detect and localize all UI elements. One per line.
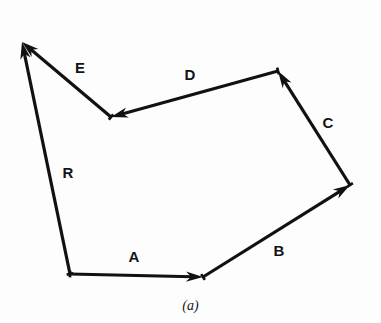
vector-label-A: A	[128, 249, 139, 264]
vector-label-D: D	[184, 67, 195, 82]
vector-shaft-D	[121, 71, 278, 114]
vector-polygon-canvas	[0, 0, 381, 323]
figure-caption: (a)	[0, 298, 381, 314]
vector-diagram-figure: A B C D E R (a)	[0, 0, 381, 323]
vector-tail-R	[67, 273, 74, 274]
vector-tail-D	[277, 68, 279, 75]
vector-label-E: E	[75, 60, 85, 75]
vector-label-C: C	[322, 115, 333, 130]
vector-label-R: R	[62, 165, 73, 180]
vector-label-B: B	[273, 243, 284, 258]
vector-shaft-C	[284, 80, 350, 185]
vector-shaft-B	[203, 191, 341, 277]
vector-shaft-A	[70, 274, 193, 277]
vector-shaft-E	[30, 49, 111, 117]
